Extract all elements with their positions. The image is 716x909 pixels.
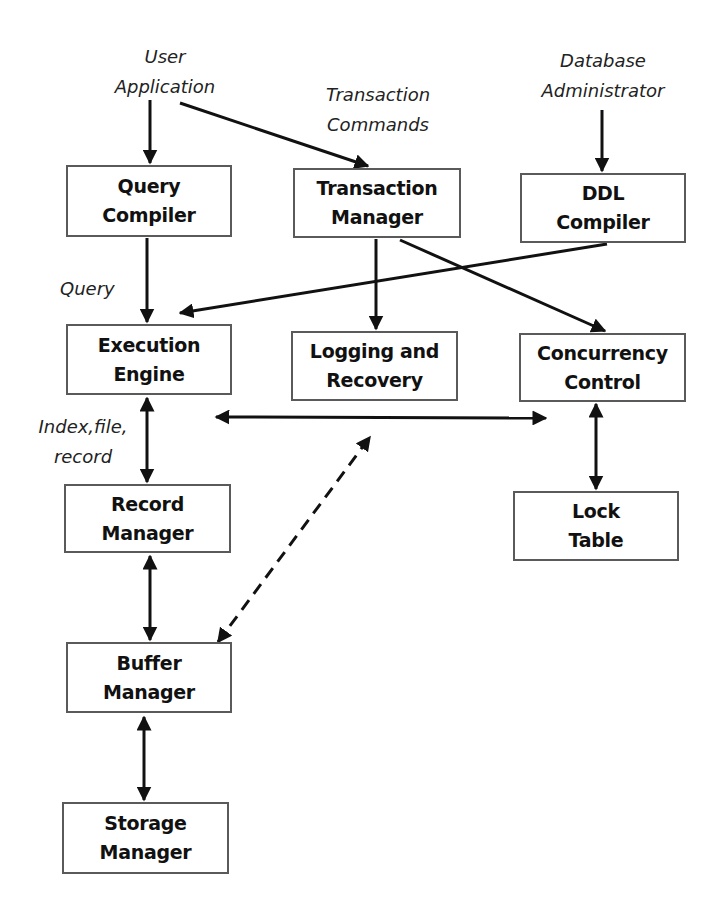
box-transaction-manager: Transaction Manager <box>293 168 461 238</box>
label-line: record <box>28 442 138 472</box>
label-line: Transaction <box>308 80 448 110</box>
label-line: Commands <box>308 110 448 140</box>
box-label: Record <box>111 490 184 519</box>
box-concurrency-control: Concurrency Control <box>519 333 686 402</box>
box-ddl-compiler: DDL Compiler <box>520 173 686 243</box>
box-label: Recovery <box>326 366 422 395</box>
arrow-txn-to-concurrency <box>400 240 605 331</box>
box-label: Logging and <box>310 337 439 366</box>
box-label: Control <box>564 368 640 397</box>
label-line: User <box>100 42 230 72</box>
label-line: Database <box>528 46 678 76</box>
box-query-compiler: Query Compiler <box>66 165 232 237</box>
box-label: Manager <box>331 203 423 232</box>
label-line: Application <box>100 72 230 102</box>
arrow-buffer-logging-dashed <box>218 437 370 642</box>
box-label: Engine <box>113 360 184 389</box>
label-query: Query <box>60 274 115 304</box>
box-label: Compiler <box>102 201 195 230</box>
label-database-administrator: Database Administrator <box>528 46 678 106</box>
label-transaction-commands: Transaction Commands <box>308 80 448 140</box>
box-logging-recovery: Logging and Recovery <box>291 331 458 401</box>
label-index-file-record: Index,file, record <box>28 412 138 472</box>
box-label: Manager <box>103 678 195 707</box>
box-execution-engine: Execution Engine <box>66 324 232 395</box>
box-label: Execution <box>98 331 200 360</box>
label-user-application: User Application <box>100 42 230 102</box>
box-label: Lock <box>572 497 620 526</box>
box-label: Buffer <box>117 649 182 678</box>
box-record-manager: Record Manager <box>64 484 231 553</box>
box-label: Transaction <box>317 174 438 203</box>
box-label: Manager <box>100 838 192 867</box>
box-label: Compiler <box>556 208 649 237</box>
label-line: Index,file, <box>28 412 138 442</box>
box-storage-manager: Storage Manager <box>62 802 229 874</box>
box-label: Table <box>569 526 624 555</box>
box-label: Manager <box>102 519 194 548</box>
box-lock-table: Lock Table <box>513 491 679 561</box>
arrow-execengine-concurrency <box>216 417 546 418</box>
label-line: Administrator <box>528 76 678 106</box>
box-label: Query <box>118 172 181 201</box>
box-label: DDL <box>582 179 625 208</box>
box-buffer-manager: Buffer Manager <box>66 642 232 713</box>
box-label: Storage <box>104 809 186 838</box>
box-label: Concurrency <box>537 339 668 368</box>
